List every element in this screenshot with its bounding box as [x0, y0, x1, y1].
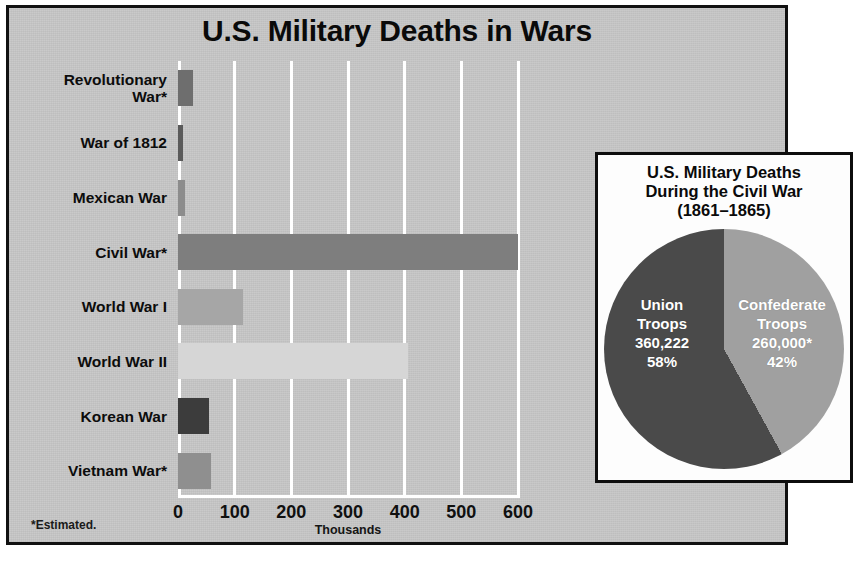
- pie-label-confederate-line1: Confederate: [722, 295, 842, 314]
- bar-row: [178, 343, 518, 379]
- x-axis-title: Thousands: [178, 523, 518, 537]
- x-tick-label: 200: [276, 502, 306, 523]
- x-tick-label: 500: [446, 502, 476, 523]
- inset-panel: U.S. Military DeathsDuring the Civil War…: [595, 152, 853, 483]
- bar: [178, 398, 209, 434]
- x-tick-label: 100: [220, 502, 250, 523]
- y-axis-label: War of 1812: [81, 134, 167, 151]
- bar-series: [178, 61, 518, 498]
- bar-row: [178, 398, 518, 434]
- bar: [178, 343, 408, 379]
- bar: [178, 180, 185, 216]
- y-axis-label: Mexican War: [73, 189, 167, 206]
- pie-label-confederate-line2: Troops: [722, 314, 842, 333]
- y-axis-label: Civil War*: [95, 244, 167, 261]
- inset-title-line: During the Civil War: [598, 182, 850, 201]
- pie-chart: Union Troops 360,222 58% Confederate Tro…: [604, 229, 844, 469]
- pie-label-confederate: Confederate Troops 260,000* 42%: [722, 295, 842, 371]
- y-axis-label: Vietnam War*: [68, 462, 167, 479]
- pie-label-union-percent: 58%: [610, 352, 714, 371]
- pie-label-confederate-percent: 42%: [722, 352, 842, 371]
- bar-row: [178, 70, 518, 106]
- pie-label-union: Union Troops 360,222 58%: [610, 295, 714, 371]
- pie-label-confederate-value: 260,000*: [722, 333, 842, 352]
- pie-label-union-value: 360,222: [610, 333, 714, 352]
- bar-row: [178, 234, 518, 270]
- y-axis-labels: Revolutionary War*War of 1812Mexican War…: [18, 61, 173, 498]
- bar-row: [178, 453, 518, 489]
- bar: [178, 234, 518, 270]
- bar-row: [178, 180, 518, 216]
- inset-title: U.S. Military DeathsDuring the Civil War…: [598, 163, 850, 220]
- x-tick-label: 0: [173, 502, 183, 523]
- bar: [178, 453, 211, 489]
- figure-root: U.S. Military Deaths in Wars Revolutiona…: [0, 0, 853, 564]
- bar: [178, 70, 193, 106]
- x-axis-line: [178, 495, 518, 498]
- footnote: *Estimated.: [31, 518, 96, 532]
- x-tick-label: 400: [390, 502, 420, 523]
- x-tick-label: 300: [333, 502, 363, 523]
- page-title: U.S. Military Deaths in Wars: [9, 14, 785, 48]
- inset-title-line: U.S. Military Deaths: [598, 163, 850, 182]
- bar: [178, 289, 243, 325]
- plot-area: [178, 61, 518, 498]
- x-tick-label: 600: [503, 502, 533, 523]
- pie-label-union-line1: Union: [610, 295, 714, 314]
- bar: [178, 125, 183, 161]
- y-axis-label: Revolutionary War*: [64, 71, 167, 105]
- y-axis-label: Korean War: [81, 408, 167, 425]
- y-axis-label: World War II: [77, 353, 167, 370]
- bar-row: [178, 125, 518, 161]
- inset-title-line: (1861–1865): [598, 201, 850, 220]
- y-axis-label: World War I: [82, 298, 167, 315]
- pie-label-union-line2: Troops: [610, 314, 714, 333]
- bar-row: [178, 289, 518, 325]
- pie-slice-labels: Union Troops 360,222 58% Confederate Tro…: [604, 229, 844, 469]
